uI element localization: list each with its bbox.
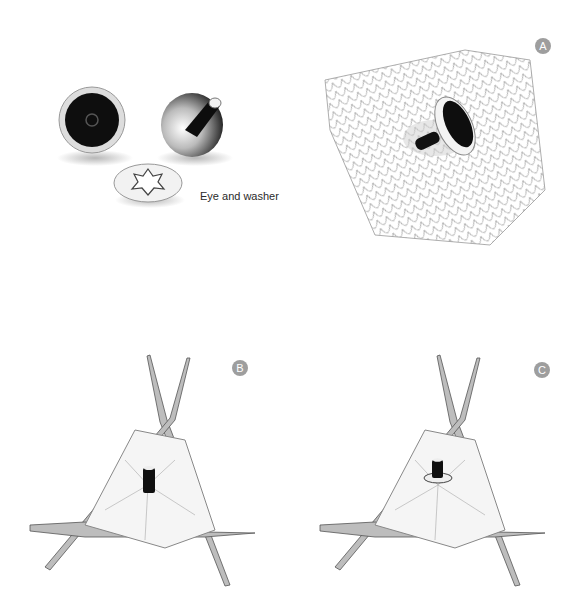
step-c-badge: C: [534, 362, 550, 378]
step-a-badge: A: [535, 38, 551, 54]
step-b-illustration: [25, 350, 270, 600]
needles-with-eye-and-washer-icon: [315, 350, 560, 600]
step-c-illustration: [315, 350, 560, 600]
eye-caption: Eye and washer: [200, 190, 279, 202]
step-a-illustration: [315, 40, 560, 255]
needles-with-eye-post-icon: [25, 350, 270, 600]
knitted-fabric-with-eye-icon: [315, 40, 560, 255]
step-b-badge: B: [232, 360, 248, 376]
